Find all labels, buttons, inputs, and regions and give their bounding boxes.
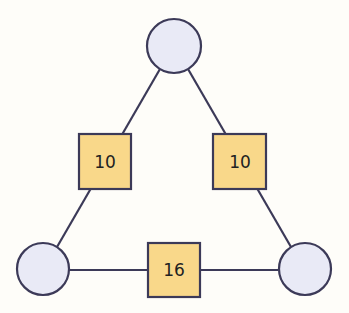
edge-weight-left: 10 — [79, 134, 131, 189]
node-top — [147, 19, 201, 73]
node-bottom-left — [17, 243, 69, 295]
edge-weight-bottom-label: 16 — [163, 260, 185, 280]
edge-weight-left-label: 10 — [94, 152, 116, 172]
edge-weight-right-label: 10 — [229, 152, 251, 172]
edge-weight-bottom: 16 — [148, 243, 200, 297]
edge-weight-right: 10 — [213, 134, 266, 189]
triangle-diagram: 10 10 16 — [0, 0, 349, 313]
node-bottom-right — [279, 243, 331, 295]
